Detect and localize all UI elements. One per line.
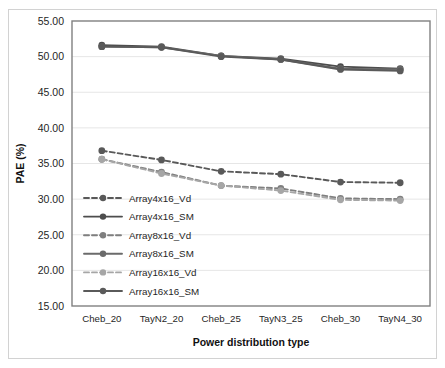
legend-label: Array8x16_SM: [129, 248, 194, 259]
legend-item-Array16x16_Vd: Array16x16_Vd: [84, 267, 197, 278]
legend-label: Array16x16_SM: [129, 286, 199, 297]
legend-marker: [100, 251, 106, 257]
series-line: [102, 151, 400, 183]
data-point: [337, 66, 344, 73]
series-Array16x16_SM: [98, 43, 403, 74]
data-point: [397, 197, 404, 204]
y-axis-tick-label: 20.00: [38, 264, 64, 276]
legend-label: Array16x16_Vd: [129, 267, 197, 278]
data-point: [397, 179, 404, 186]
data-point: [98, 147, 105, 154]
y-axis-tick-label: 25.00: [38, 229, 64, 241]
y-axis-tick-label: 30.00: [38, 193, 64, 205]
legend-label: Array8x16_Vd: [129, 230, 191, 241]
x-axis-tick-label: TayN2_20: [140, 313, 184, 324]
legend-label: Array4x16_SM: [129, 211, 194, 222]
legend-item-Array4x16_SM: Array4x16_SM: [84, 211, 194, 222]
x-axis-tick-label: TayN4_30: [378, 313, 422, 324]
series-Array4x16_Vd: [98, 147, 403, 186]
data-point: [337, 179, 344, 186]
x-axis-tick-label: Cheb_20: [82, 313, 122, 324]
y-axis-tick-label: 50.00: [38, 50, 64, 62]
legend-marker: [100, 288, 106, 294]
x-axis-tick-label: Cheb_25: [202, 313, 241, 324]
x-axis-title: Power distribution type: [193, 336, 310, 348]
legend-item-Array16x16_SM: Array16x16_SM: [84, 286, 199, 297]
data-point: [158, 170, 165, 177]
chart-legend: Array4x16_VdArray4x16_SMArray8x16_VdArra…: [84, 193, 199, 297]
data-series-group: [98, 42, 403, 204]
x-axis-tick-label: TayN3_25: [259, 313, 303, 324]
data-point: [218, 53, 225, 60]
legend-marker: [100, 195, 106, 201]
data-point: [337, 196, 344, 203]
y-axis-tick-label: 45.00: [38, 86, 64, 98]
x-axis-tick-label: Cheb_30: [321, 313, 361, 324]
y-axis-tick-labels: 15.0020.0025.0030.0035.0040.0045.0050.00…: [38, 15, 64, 312]
data-point: [397, 67, 404, 74]
y-axis-tick-label: 15.00: [38, 300, 64, 312]
data-point: [218, 182, 225, 189]
legend-item-Array4x16_Vd: Array4x16_Vd: [84, 193, 191, 204]
legend-marker: [100, 269, 106, 275]
legend-item-Array8x16_SM: Array8x16_SM: [84, 248, 194, 259]
y-axis-title: PAE (%): [14, 143, 26, 183]
data-point: [158, 157, 165, 164]
legend-marker: [100, 232, 106, 238]
data-point: [277, 56, 284, 63]
legend-item-Array8x16_Vd: Array8x16_Vd: [84, 230, 191, 241]
legend-label: Array4x16_Vd: [129, 193, 191, 204]
data-point: [158, 44, 165, 51]
pae-line-chart: 15.0020.0025.0030.0035.0040.0045.0050.00…: [0, 0, 445, 368]
legend-marker: [100, 213, 106, 219]
y-axis-tick-label: 35.00: [38, 157, 64, 169]
data-point: [218, 168, 225, 175]
data-point: [277, 171, 284, 178]
chart-container: 15.0020.0025.0030.0035.0040.0045.0050.00…: [0, 0, 445, 368]
data-point: [98, 156, 105, 163]
y-axis-tick-label: 40.00: [38, 122, 64, 134]
x-axis-tick-labels: Cheb_20TayN2_20Cheb_25TayN3_25Cheb_30Tay…: [82, 313, 422, 324]
y-axis-tick-label: 55.00: [38, 15, 64, 27]
data-point: [98, 43, 105, 50]
data-point: [277, 187, 284, 194]
